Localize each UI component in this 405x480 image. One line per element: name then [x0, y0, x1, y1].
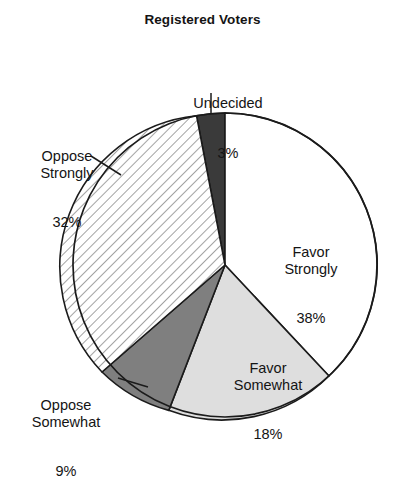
pie-label-undecided-value: 3%: [148, 145, 308, 162]
pie-label-favor-somewhat: Favor Somewhat 18%: [205, 327, 331, 476]
pie-label-oppose-somewhat-name: Oppose Somewhat: [2, 397, 130, 430]
pie-label-favor-somewhat-name: Favor Somewhat: [205, 360, 331, 393]
pie-label-oppose-somewhat: Oppose Somewhat 9%: [2, 364, 130, 480]
pie-label-undecided: Undecided 3%: [148, 62, 308, 194]
pie-label-oppose-somewhat-value: 9%: [2, 463, 130, 480]
pie-label-oppose-strongly: Oppose Strongly 32%: [8, 115, 126, 264]
pie-label-oppose-strongly-name: Oppose Strongly: [8, 148, 126, 181]
pie-label-favor-somewhat-value: 18%: [205, 426, 331, 443]
pie-label-favor-strongly-value: 38%: [252, 310, 370, 327]
pie-label-favor-strongly-name: Favor Strongly: [252, 244, 370, 277]
pie-label-oppose-strongly-value: 32%: [8, 214, 126, 231]
pie-label-undecided-name: Undecided: [148, 95, 308, 112]
